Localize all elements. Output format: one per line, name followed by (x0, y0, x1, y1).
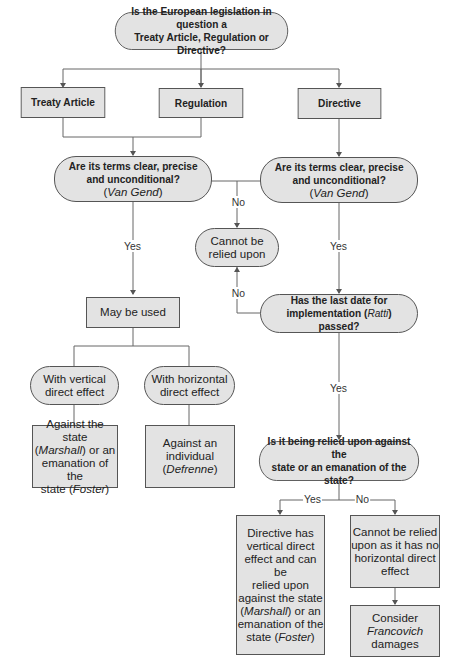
question-terms-left: Are its terms clear, preciseand uncondit… (54, 156, 212, 202)
node-against-the-state: Against the state(Marshall) or anemanati… (32, 425, 118, 488)
edge-label-yes-state: Yes (303, 493, 322, 505)
question-relied-against-state: Is it being relied upon against thestate… (259, 441, 419, 481)
edge-label-no-date: No (231, 287, 246, 299)
question-terms-right: Are its terms clear, preciseand uncondit… (260, 157, 418, 203)
edge-label-yes-right: Yes (329, 240, 348, 252)
node-may-be-used: May be used (86, 297, 180, 328)
node-vertical-direct-effect: With verticaldirect effect (30, 366, 119, 405)
node-regulation: Regulation (159, 88, 243, 118)
edge-label-yes-left: Yes (123, 240, 142, 252)
node-horizontal-direct-effect: With horizontaldirect effect (144, 366, 235, 405)
node-directive-vertical-effect: Directive hasvertical directeffect and c… (236, 515, 325, 655)
node-francovich-damages: ConsiderFrancovichdamages (350, 605, 440, 657)
flowchart: Is the European legislation in question … (0, 0, 450, 668)
edge-label-yes-date: Yes (329, 382, 348, 394)
edge-label-no-terms: No (231, 196, 246, 208)
node-treaty-article: Treaty Article (21, 87, 105, 118)
edge-label-no-state: No (355, 493, 370, 505)
node-against-an-individual: Against anindividual(Defrenne) (145, 425, 235, 488)
node-no-horizontal-effect: Cannot be reliedupon as it has nohorizon… (350, 515, 440, 588)
question-legislation-type: Is the European legislation in question … (115, 12, 288, 50)
node-directive: Directive (298, 88, 382, 119)
question-implementation-date: Has the last date forimplementation (Rat… (260, 294, 418, 333)
node-cannot-be-relied-upon: Cannot berelied upon (195, 228, 279, 267)
